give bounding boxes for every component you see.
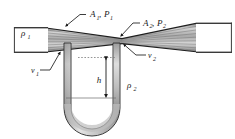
svg-text:2: 2 xyxy=(153,56,156,62)
svg-text:P: P xyxy=(156,18,163,28)
figure-canvas: h ρ 1 A 1 , P 1 xyxy=(0,0,235,139)
svg-text:ρ: ρ xyxy=(126,80,132,90)
svg-text:,: , xyxy=(99,9,101,19)
h-label: h xyxy=(97,75,102,85)
svg-text:A: A xyxy=(89,9,96,19)
svg-text:1: 1 xyxy=(36,71,39,77)
label-inlet-density: ρ 1 xyxy=(20,28,31,40)
svg-text:1: 1 xyxy=(28,34,31,40)
manometer-right-limb-fluid xyxy=(114,44,120,110)
leader-throat-area xyxy=(121,23,140,36)
converging-duct xyxy=(48,28,122,52)
svg-text:,: , xyxy=(152,18,154,28)
svg-text:v: v xyxy=(31,66,35,75)
manometer-left-limb-fluid xyxy=(65,44,71,110)
svg-text:ρ: ρ xyxy=(20,28,26,38)
label-inlet-velocity: v 1 xyxy=(31,66,39,77)
u-tube-manometer xyxy=(64,43,120,136)
label-throat-area-pressure: A 2 , P 2 xyxy=(142,18,166,30)
leader-inlet-velocity xyxy=(40,53,60,71)
svg-text:2: 2 xyxy=(134,86,137,92)
label-manometer-density: ρ 2 xyxy=(126,80,137,92)
svg-text:v: v xyxy=(148,51,152,60)
diverging-duct xyxy=(122,23,196,51)
label-throat-velocity: v 2 xyxy=(148,51,156,62)
svg-text:P: P xyxy=(103,9,110,19)
svg-text:2: 2 xyxy=(163,23,166,29)
label-inlet-area-pressure: A 1 , P 1 xyxy=(89,9,113,21)
svg-text:1: 1 xyxy=(110,15,113,21)
venturi-meter-figure: h ρ 1 A 1 , P 1 xyxy=(0,0,235,139)
leader-inlet-area xyxy=(66,15,86,27)
inlet-pipe xyxy=(14,27,48,53)
h-dimension: h xyxy=(97,59,106,97)
svg-text:A: A xyxy=(142,18,149,28)
outlet-pipe xyxy=(196,23,232,53)
